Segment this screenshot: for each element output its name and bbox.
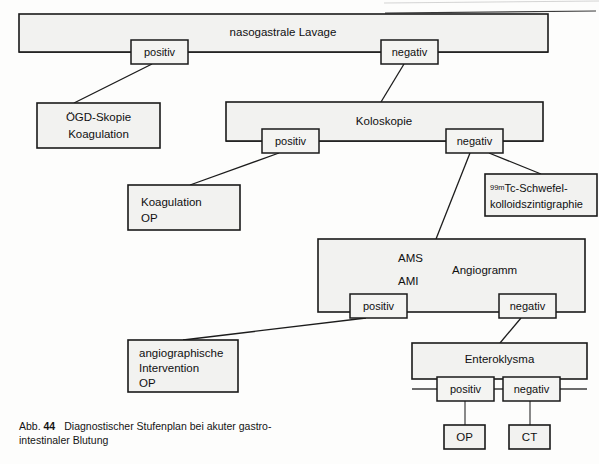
node-enteroklysma[interactable]: Enteroklysma: [412, 343, 587, 379]
node-label-oegd-skopie-line2: Koagulation: [68, 128, 129, 140]
node-label-enteroklysma: Enteroklysma: [465, 353, 535, 365]
node-label-tc-superscript: 99m: [490, 183, 505, 192]
figure-caption-text-line2: intestinaler Blutung: [19, 434, 108, 446]
flowchart-canvas: nasogastrale Lavage positiv negativ ÖGD-…: [0, 0, 599, 464]
node-label-koagulation-op-line1: Koagulation: [141, 196, 202, 208]
node-label-tc-line2: kolloidszintigraphie: [490, 198, 583, 210]
node-label-lavage-positiv: positiv: [144, 46, 176, 58]
node-label-koagulation-op-line2: OP: [141, 212, 158, 224]
node-angio-negativ[interactable]: negativ: [499, 294, 556, 318]
node-lavage-negativ[interactable]: negativ: [381, 40, 438, 64]
edge-kolo-negativ-to-angiogramm: [436, 153, 470, 239]
edge-kolo-positiv-to-koagulation-op: [190, 153, 279, 185]
node-label-koloskopie: Koloskopie: [356, 115, 412, 127]
figure-caption-text-line1: Diagnostischer Stufenplan bei akuter gas…: [64, 420, 271, 432]
node-label-angio-negativ: negativ: [510, 300, 546, 312]
node-entero-negativ[interactable]: negativ: [503, 377, 560, 401]
node-label-op-final: OP: [456, 431, 473, 443]
edge-angio-negativ-to-enteroklysma: [500, 318, 521, 343]
edge-angio-positiv-to-intervention: [183, 318, 366, 340]
node-label-angio-positiv: positiv: [363, 300, 395, 312]
node-label-tc-isotope: Tc-Schwefel-: [505, 182, 568, 194]
scan-artifact-faint-line: [384, 1, 599, 3]
node-angio-positiv[interactable]: positiv: [350, 294, 407, 318]
node-label-kolo-negativ: negativ: [457, 135, 493, 147]
node-kolo-positiv[interactable]: positiv: [262, 129, 319, 153]
scan-artifact-dark-line: [385, 11, 596, 13]
edge-lavage-positiv-to-oegd: [74, 64, 152, 103]
node-label-angiogramm-ams: AMS: [398, 252, 423, 264]
node-label-entero-negativ: negativ: [514, 383, 550, 395]
node-label-lavage-negativ: negativ: [392, 46, 428, 58]
node-ct-final[interactable]: CT: [509, 425, 550, 449]
node-tc-szintigraphie[interactable]: 99mTc-Schwefel- kolloidszintigraphie: [485, 174, 597, 216]
node-label-entero-positiv: positiv: [450, 383, 482, 395]
figure-root: nasogastrale Lavage positiv negativ ÖGD-…: [0, 0, 599, 464]
node-label-intervention-line1: angiographische: [139, 347, 223, 359]
node-label-kolo-positiv: positiv: [275, 135, 307, 147]
node-label-intervention-line3: OP: [139, 377, 156, 389]
figure-caption: Abb. 44Diagnostischer Stufenplan bei aku…: [19, 420, 349, 447]
node-entero-positiv[interactable]: positiv: [437, 377, 494, 401]
node-angiographische-intervention[interactable]: angiographische Intervention OP: [128, 340, 238, 392]
figure-caption-number: 44: [44, 420, 56, 432]
node-nasogastrale-lavage[interactable]: nasogastrale Lavage: [19, 14, 548, 52]
node-lavage-positiv[interactable]: positiv: [131, 40, 188, 64]
node-oegd-skopie[interactable]: ÖGD-Skopie Koagulation: [37, 103, 160, 148]
node-label-oegd-skopie-line1: ÖGD-Skopie: [66, 111, 131, 123]
edge-kolo-negativ-to-tc: [489, 153, 541, 174]
node-kolo-negativ[interactable]: negativ: [446, 129, 503, 153]
node-label-angiogramm-ami: AMI: [398, 275, 418, 287]
figure-caption-label: Abb.: [19, 420, 41, 432]
node-label-ct-final: CT: [522, 431, 537, 443]
node-label-intervention-line2: Intervention: [139, 362, 199, 374]
node-op-final[interactable]: OP: [444, 425, 485, 449]
edge-lavage-negativ-to-koloskopie: [381, 64, 404, 102]
node-label-angiogramm: Angiogramm: [452, 264, 517, 276]
node-koagulation-op[interactable]: Koagulation OP: [128, 185, 240, 230]
node-label-nasogastrale-lavage: nasogastrale Lavage: [230, 26, 337, 38]
